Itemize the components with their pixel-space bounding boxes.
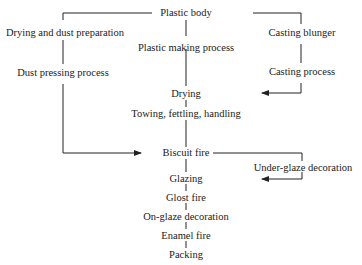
node-plastic-body: Plastic body xyxy=(160,7,212,19)
node-towing-fettling-handling: Towing, fettling, handling xyxy=(131,108,241,120)
node-glost-fire: Glost fire xyxy=(166,192,206,204)
node-glazing: Glazing xyxy=(169,173,202,185)
node-casting-blunger: Casting blunger xyxy=(269,27,336,39)
node-dust-pressing-process: Dust pressing process xyxy=(17,67,109,79)
node-casting-process: Casting process xyxy=(269,66,335,78)
node-drying-dust-preparation: Drying and dust preparation xyxy=(6,27,124,39)
node-biscuit-fire: Biscuit fire xyxy=(163,147,210,159)
node-on-glaze-decoration: On-glaze decoration xyxy=(143,211,228,223)
line-plastic-to-drying-dust xyxy=(63,13,152,20)
flow-connectors xyxy=(0,0,362,265)
node-under-glaze-decoration: Under-glaze decoration xyxy=(254,162,353,174)
arrow-casting-to-drying xyxy=(262,83,301,93)
node-drying: Drying xyxy=(171,88,201,100)
arrow-dust-to-biscuit xyxy=(63,84,141,153)
node-packing: Packing xyxy=(169,249,203,261)
node-plastic-making-process: Plastic making process xyxy=(138,42,234,54)
node-enamel-fire: Enamel fire xyxy=(161,230,210,242)
